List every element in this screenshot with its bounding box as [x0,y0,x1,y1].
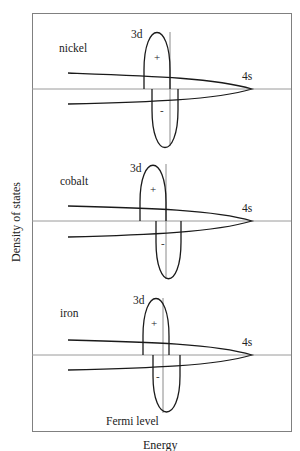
density-of-states-diagram: nickel 3d 4s + - cobalt 3d 4s + - iron 3… [0,0,300,451]
spin-up-sign: + [151,317,157,329]
band-4s-label: 4s [242,70,253,82]
spin-down-sign: - [156,370,160,382]
spin-down-sign: - [160,104,164,116]
band-3d-label: 3d [133,294,145,306]
band-4s-label: 4s [242,202,253,214]
fermi-level-label: Fermi level [106,415,159,427]
spin-up-sign: + [150,183,156,195]
plot-frame [33,14,292,432]
metal-label: cobalt [60,175,89,187]
band-3d-label: 3d [130,162,142,174]
x-axis-label: Energy [143,438,177,451]
band-3d-label: 3d [131,28,143,40]
band-4s-label: 4s [242,336,253,348]
band-3d-spin-down-lobe [152,89,178,148]
spin-down-sign: - [161,237,165,249]
metal-label: nickel [59,42,87,54]
y-axis-label: Density of states [9,182,23,262]
spin-up-sign: + [154,51,160,63]
band-3d-spin-down-lobe [156,221,181,279]
panel-iron: iron 3d 4s + - [32,294,291,413]
panel-cobalt: cobalt 3d 4s + - [32,162,291,279]
panel-nickel: nickel 3d 4s + - [32,28,291,148]
metal-label: iron [60,307,79,319]
band-3d-spin-down-lobe [153,355,180,412]
